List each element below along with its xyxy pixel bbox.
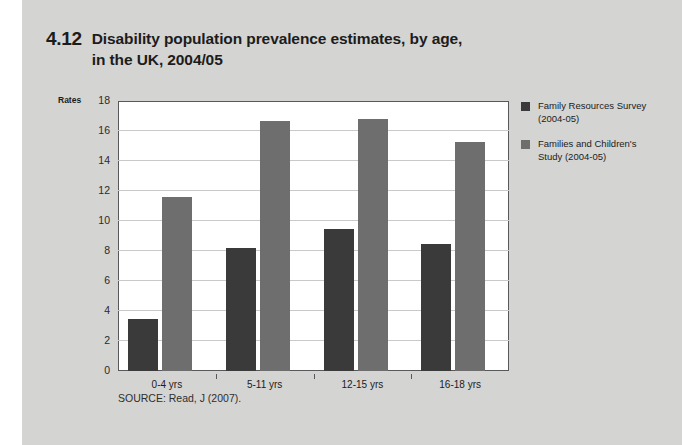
x-tick-label: 0-4 yrs: [122, 379, 212, 390]
x-axis-labels: 0-4 yrs5-11 yrs12-15 yrs16-18 yrs: [118, 374, 509, 390]
legend-swatch-icon: [521, 102, 530, 111]
bar: [421, 244, 451, 372]
y-tick-label: 0: [84, 364, 110, 376]
bar: [260, 121, 290, 372]
page-gutter: [0, 0, 22, 445]
chart-plot-area: [118, 101, 509, 371]
x-tick-label: 5-11 yrs: [220, 379, 310, 390]
figure-container: 4.12 Disability population prevalence es…: [0, 0, 682, 445]
y-axis-title: Rates: [58, 95, 81, 105]
y-tick-label: 12: [84, 184, 110, 196]
bar: [324, 229, 354, 372]
x-tick-mark: [411, 374, 412, 379]
bar-group: [411, 101, 509, 371]
y-tick-label: 14: [84, 154, 110, 166]
source-note: SOURCE: Read, J (2007).: [118, 392, 241, 404]
bar: [358, 119, 388, 371]
bar: [162, 197, 192, 371]
y-tick-label: 8: [84, 244, 110, 256]
chart-legend: Family Resources Survey(2004-05)Families…: [521, 100, 671, 176]
y-tick-label: 18: [84, 94, 110, 106]
x-tick-mark: [314, 374, 315, 379]
bar-group: [314, 101, 412, 371]
page-title: Disability population prevalence estimat…: [92, 28, 462, 70]
x-tick-label: 12-15 yrs: [317, 379, 407, 390]
x-tick-label: 16-18 yrs: [415, 379, 505, 390]
legend-item: Families and Children'sStudy (2004-05): [521, 138, 671, 163]
bar: [455, 142, 485, 372]
bar-group: [118, 101, 216, 371]
bars-layer: [118, 101, 509, 371]
x-tick-mark: [216, 374, 217, 379]
legend-label-line-2: (2004-05): [538, 113, 646, 126]
bar-group: [216, 101, 314, 371]
legend-label-line-2: Study (2004-05): [538, 151, 636, 164]
y-tick-label: 2: [84, 334, 110, 346]
y-tick-label: 6: [84, 274, 110, 286]
bar: [128, 319, 158, 372]
bar: [226, 248, 256, 371]
figure-title-line-2: in the UK, 2004/05: [92, 49, 462, 70]
legend-swatch-icon: [521, 140, 530, 149]
legend-item: Family Resources Survey(2004-05): [521, 100, 671, 125]
legend-label-line-1: Family Resources Survey: [538, 100, 646, 113]
legend-label-line-1: Families and Children's: [538, 138, 636, 151]
y-tick-label: 4: [84, 304, 110, 316]
legend-label: Families and Children'sStudy (2004-05): [538, 138, 636, 163]
figure-title-block: 4.12 Disability population prevalence es…: [46, 28, 516, 70]
figure-title-line-1: Disability population prevalence estimat…: [92, 28, 462, 49]
figure-number: 4.12: [46, 28, 92, 49]
legend-label: Family Resources Survey(2004-05): [538, 100, 646, 125]
y-tick-label: 16: [84, 124, 110, 136]
y-tick-label: 10: [84, 214, 110, 226]
